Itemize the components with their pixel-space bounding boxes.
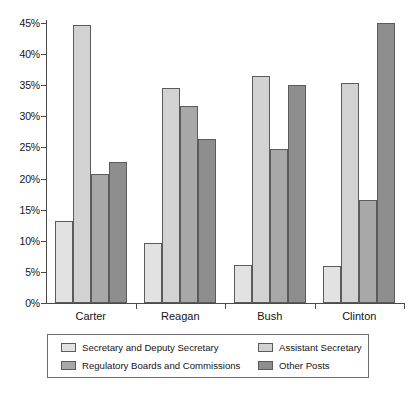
legend-item-0[interactable]: Secretary and Deputy Secretary [61, 342, 219, 353]
y-tick-mark [41, 147, 46, 148]
bar-carter-series-3 [109, 162, 127, 303]
bar-bush-series-2 [270, 149, 288, 303]
legend-grid: Secretary and Deputy SecretaryRegulatory… [48, 335, 368, 377]
bars-layer [46, 0, 404, 330]
legend-item-label: Regulatory Boards and Commissions [82, 360, 240, 371]
x-category-label-clinton: Clinton [315, 310, 405, 322]
bar-bush-series-1 [252, 76, 270, 303]
y-tick-mark [41, 54, 46, 55]
y-tick-label: 10% [2, 236, 40, 246]
x-group-separator [315, 303, 316, 309]
bar-carter-series-1 [73, 25, 91, 303]
y-tick-mark [41, 241, 46, 242]
bar-reagan-series-1 [162, 88, 180, 303]
bar-clinton-series-2 [359, 200, 377, 303]
legend-item-label: Assistant Secretary [279, 342, 362, 353]
y-tick-label: 15% [2, 205, 40, 215]
y-tick-mark [41, 179, 46, 180]
bar-bush-series-0 [234, 265, 252, 303]
y-tick-mark [41, 85, 46, 86]
bar-chart: 0%5%10%15%20%25%30%35%40%45% CarterReaga… [0, 0, 417, 405]
bar-bush-series-3 [288, 85, 306, 303]
legend-item-label: Other Posts [279, 360, 330, 371]
x-group-separator [225, 303, 226, 309]
plot-area: 0%5%10%15%20%25%30%35%40%45% CarterReaga… [0, 0, 417, 330]
y-tick-mark [41, 116, 46, 117]
x-group-separator [136, 303, 137, 309]
y-tick-label: 40% [2, 49, 40, 59]
bar-clinton-series-3 [377, 23, 395, 303]
legend-swatch-icon [258, 343, 273, 352]
y-tick-label: 35% [2, 80, 40, 90]
y-tick-mark [41, 23, 46, 24]
y-tick-label: 5% [2, 267, 40, 277]
bar-reagan-series-2 [180, 106, 198, 303]
y-tick-label: 20% [2, 174, 40, 184]
legend-item-3[interactable]: Other Posts [258, 360, 330, 371]
bar-carter-series-0 [55, 221, 73, 303]
y-tick-label: 30% [2, 111, 40, 121]
bar-reagan-series-0 [144, 243, 162, 303]
y-tick-mark [41, 210, 46, 211]
bar-clinton-series-0 [323, 266, 341, 303]
legend-item-label: Secretary and Deputy Secretary [82, 342, 219, 353]
legend-item-1[interactable]: Assistant Secretary [258, 342, 362, 353]
y-tick-label: 25% [2, 142, 40, 152]
bar-clinton-series-1 [341, 83, 359, 303]
bar-carter-series-2 [91, 174, 109, 303]
legend-item-2[interactable]: Regulatory Boards and Commissions [61, 360, 240, 371]
legend-swatch-icon [61, 343, 76, 352]
y-axis: 0%5%10%15%20%25%30%35%40%45% [0, 0, 40, 330]
x-axis-end-tick [404, 303, 405, 309]
x-category-label-reagan: Reagan [136, 310, 226, 322]
legend-swatch-icon [258, 361, 273, 370]
y-tick-mark [41, 272, 46, 273]
x-category-label-bush: Bush [225, 310, 315, 322]
legend: Secretary and Deputy SecretaryRegulatory… [47, 334, 369, 378]
x-category-label-carter: Carter [46, 310, 136, 322]
y-tick-mark [41, 303, 46, 304]
y-tick-label: 45% [2, 18, 40, 28]
y-tick-label: 0% [2, 298, 40, 308]
legend-swatch-icon [61, 361, 76, 370]
bar-reagan-series-3 [198, 139, 216, 303]
